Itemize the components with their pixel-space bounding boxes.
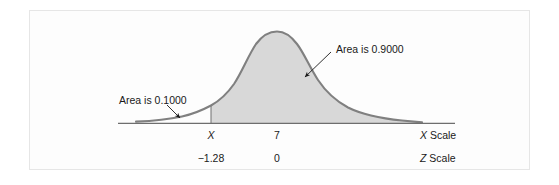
x-axis-tick-mean: 7 bbox=[274, 130, 280, 141]
left-tail-arrow bbox=[167, 105, 180, 118]
z-axis-tick-cutoff: −1.28 bbox=[198, 153, 225, 164]
shaded-area-annotation: Area is 0.9000 bbox=[336, 44, 404, 55]
x-scale-label: X Scale bbox=[420, 130, 456, 141]
left-tail-area-annotation: Area is 0.1000 bbox=[119, 95, 187, 106]
z-scale-symbol: Z bbox=[420, 152, 426, 164]
x-scale-symbol: X bbox=[420, 129, 427, 141]
z-scale-label: Z Scale bbox=[420, 153, 456, 164]
normal-distribution-figure: Area is 0.1000 Area is 0.9000 X 7 −1.28 … bbox=[0, 0, 559, 185]
x-axis-tick-cutoff: X bbox=[207, 130, 214, 141]
z-scale-word: Scale bbox=[429, 152, 455, 164]
x-scale-word: Scale bbox=[430, 129, 456, 141]
z-axis-tick-mean: 0 bbox=[274, 153, 280, 164]
